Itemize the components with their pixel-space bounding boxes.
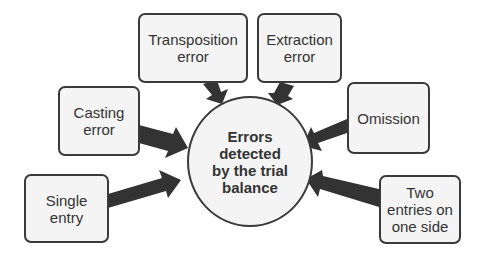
center-label: Errors detected by the trial balance xyxy=(212,128,288,196)
node-two-entries: Two entries on one side xyxy=(379,175,461,244)
arrow-casting xyxy=(139,125,188,158)
node-extraction: Extraction error xyxy=(257,13,342,83)
node-label: Casting error xyxy=(74,104,125,138)
node-label: Omission xyxy=(357,110,420,127)
node-single-entry: Single entry xyxy=(24,174,109,243)
node-label: Extraction error xyxy=(266,31,333,65)
node-label: Two entries on one side xyxy=(387,184,453,235)
diagram: Errors detected by the trial balance Tra… xyxy=(0,0,483,257)
arrow-single xyxy=(108,170,181,208)
node-casting: Casting error xyxy=(58,86,140,156)
node-omission: Omission xyxy=(347,82,430,154)
node-label: Transposition error xyxy=(148,31,238,65)
node-label: Single entry xyxy=(46,192,88,226)
center-node: Errors detected by the trial balance xyxy=(187,96,313,227)
arrow-two-entries xyxy=(306,170,379,207)
node-transposition: Transposition error xyxy=(138,13,248,83)
